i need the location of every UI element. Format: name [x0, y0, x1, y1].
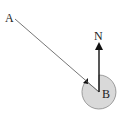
label-point-b: B [102, 87, 110, 101]
line-a-to-b [15, 19, 99, 92]
label-point-a: A [5, 11, 14, 25]
north-arrowhead-icon [95, 42, 103, 50]
bearing-diagram: A N B [0, 0, 123, 115]
label-north: N [94, 29, 103, 43]
